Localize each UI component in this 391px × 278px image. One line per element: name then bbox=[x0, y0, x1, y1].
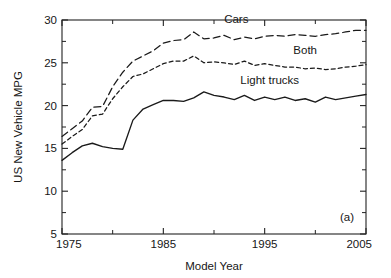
series-line-light-trucks bbox=[62, 92, 366, 160]
y-tick-label: 20 bbox=[44, 100, 57, 112]
x-tick-label: 1985 bbox=[151, 238, 177, 250]
line-chart: 51015202530 1975198519952005 CarsBothLig… bbox=[0, 0, 391, 278]
series-label-both: Both bbox=[293, 44, 317, 56]
x-tick-label: 2005 bbox=[346, 238, 372, 250]
y-axis-tick-labels: 51015202530 bbox=[44, 14, 57, 240]
y-tick-label: 30 bbox=[44, 14, 57, 26]
series-label-light-trucks: Light trucks bbox=[240, 74, 299, 86]
y-tick-label: 25 bbox=[44, 57, 57, 69]
panel-label: (a) bbox=[340, 211, 354, 223]
series-label-cars: Cars bbox=[224, 13, 249, 25]
x-tick-label: 1995 bbox=[252, 238, 278, 250]
x-axis-title: Model Year bbox=[185, 260, 243, 272]
x-axis-ticks bbox=[62, 20, 366, 234]
x-axis-tick-labels: 1975198519952005 bbox=[56, 238, 372, 250]
x-tick-label: 1975 bbox=[56, 238, 82, 250]
series-annotations: CarsBothLight trucks bbox=[224, 13, 317, 86]
plot-frame bbox=[62, 20, 366, 234]
y-axis-ticks bbox=[62, 20, 366, 234]
data-series-group bbox=[62, 30, 366, 160]
y-tick-label: 15 bbox=[44, 142, 57, 154]
y-axis-title: US New Vehicle MPG bbox=[12, 71, 24, 183]
y-tick-label: 10 bbox=[44, 185, 57, 197]
series-line-cars bbox=[62, 30, 366, 136]
chart-figure: 51015202530 1975198519952005 CarsBothLig… bbox=[0, 0, 391, 278]
